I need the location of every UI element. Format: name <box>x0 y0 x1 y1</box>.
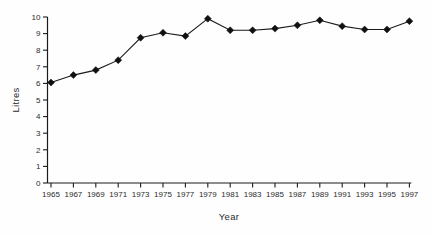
x-axis-title: Year <box>47 211 411 222</box>
y-tick-label: 5 <box>36 96 41 105</box>
data-point-marker <box>249 27 256 34</box>
data-point-marker <box>70 72 77 79</box>
data-point-marker <box>272 25 279 32</box>
x-tick-label: 1981 <box>221 190 239 199</box>
y-tick-label: 1 <box>36 162 41 171</box>
x-tick-label: 1965 <box>42 190 60 199</box>
x-tick-label: 1979 <box>199 190 217 199</box>
x-tick-label: 1993 <box>356 190 374 199</box>
x-tick-label: 1987 <box>289 190 307 199</box>
x-tick-label: 1977 <box>177 190 195 199</box>
y-tick-label: 3 <box>36 129 41 138</box>
x-tick-label: 1985 <box>266 190 284 199</box>
y-tick-label: 2 <box>36 146 41 155</box>
y-tick-label: 8 <box>36 46 41 55</box>
line-chart-plot: 0123456789101965196719691971197319751977… <box>0 0 433 236</box>
data-point-marker <box>227 27 234 34</box>
data-point-marker <box>406 18 413 25</box>
y-tick-label: 10 <box>32 13 41 22</box>
data-point-marker <box>361 26 368 33</box>
y-tick-label: 6 <box>36 79 41 88</box>
line-chart-figure: 0123456789101965196719691971197319751977… <box>0 0 433 236</box>
x-tick-label: 1969 <box>87 190 105 199</box>
y-tick-label: 9 <box>36 29 41 38</box>
y-tick-label: 0 <box>36 179 41 188</box>
x-tick-label: 1975 <box>154 190 172 199</box>
data-point-marker <box>339 23 346 30</box>
data-point-marker <box>316 17 323 24</box>
x-tick-label: 1989 <box>311 190 329 199</box>
data-point-marker <box>294 22 301 29</box>
x-tick-label: 1973 <box>132 190 150 199</box>
y-axis-title: Litres <box>10 87 21 112</box>
data-point-marker <box>384 26 391 33</box>
data-point-marker <box>160 29 167 36</box>
data-point-marker <box>48 79 55 86</box>
x-tick-label: 1983 <box>244 190 262 199</box>
x-tick-label: 1971 <box>109 190 127 199</box>
y-tick-label: 7 <box>36 63 41 72</box>
data-point-marker <box>92 67 99 74</box>
x-tick-label: 1967 <box>65 190 83 199</box>
x-tick-label: 1991 <box>333 190 351 199</box>
y-tick-label: 4 <box>36 112 41 121</box>
x-tick-label: 1997 <box>401 190 419 199</box>
x-tick-label: 1995 <box>378 190 396 199</box>
